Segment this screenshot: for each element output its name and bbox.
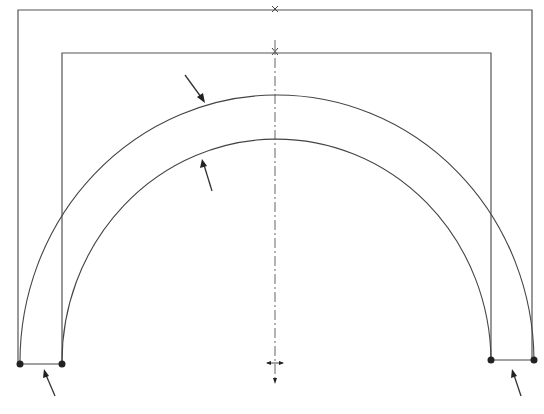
arrow-inner-arc-icon: [200, 159, 212, 191]
inner-left-support-dot: [59, 361, 66, 368]
outer-arc: [20, 95, 534, 364]
arrow-outer-arc-icon: [185, 75, 205, 103]
arch-drawing: [0, 0, 544, 414]
arrow-left-span-icon: [43, 369, 55, 396]
outer-right-support-dot: [531, 357, 538, 364]
outer-left-support-dot: [17, 361, 24, 368]
inner-frame: [62, 53, 491, 362]
outer-frame-center-mark: [272, 6, 278, 12]
inner-arc: [62, 139, 491, 364]
arrow-right-span-icon: [511, 369, 521, 396]
inner-right-support-dot: [488, 357, 495, 364]
